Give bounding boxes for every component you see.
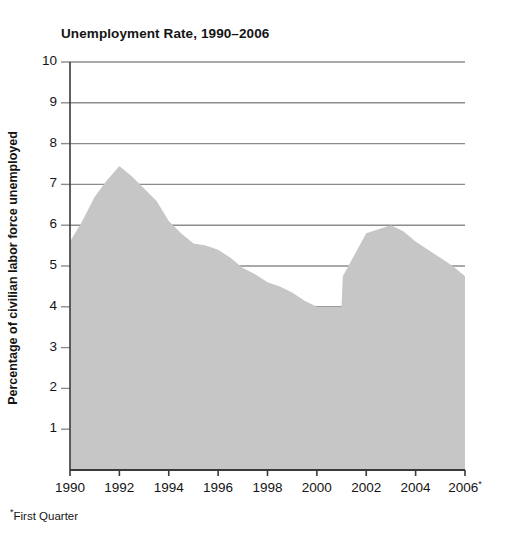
y-tick-label-1: 1 <box>31 420 57 435</box>
x-tick-label-2002: 2002 <box>338 480 394 495</box>
x-tick-label-text: 2006 <box>448 480 478 495</box>
x-tick-label-1994: 1994 <box>141 480 197 495</box>
x-tick-label-text: 1994 <box>154 480 184 495</box>
x-tick-label-1998: 1998 <box>240 480 296 495</box>
y-tick-label-2: 2 <box>31 379 57 394</box>
area-series-unemployment-rate <box>70 166 465 470</box>
unemployment-rate-area-chart: Unemployment Rate, 1990–2006 Percentage … <box>0 0 505 546</box>
x-tick-label-text: 2004 <box>401 480 431 495</box>
y-tick-label-6: 6 <box>31 216 57 231</box>
plot-area <box>0 0 505 546</box>
x-tick-label-1992: 1992 <box>91 480 147 495</box>
x-tick-label-2000: 2000 <box>289 480 345 495</box>
x-tick-label-1996: 1996 <box>190 480 246 495</box>
y-tick-label-9: 9 <box>31 94 57 109</box>
y-tick-label-3: 3 <box>31 339 57 354</box>
x-tick-label-text: 2000 <box>302 480 332 495</box>
x-tick-label-text: 1992 <box>104 480 134 495</box>
x-tick-label-1990: 1990 <box>42 480 98 495</box>
y-tick-label-4: 4 <box>31 298 57 313</box>
footnote: *First Quarter <box>10 510 78 522</box>
footnote-text: First Quarter <box>14 510 79 522</box>
x-tick-label-2006: 2006* <box>437 480 493 495</box>
x-tick-label-text: 1990 <box>55 480 85 495</box>
y-tick-label-5: 5 <box>31 257 57 272</box>
y-tick-label-10: 10 <box>31 53 57 68</box>
x-tick-label-text: 1998 <box>252 480 282 495</box>
y-tick-label-8: 8 <box>31 135 57 150</box>
x-tick-label-2004: 2004 <box>388 480 444 495</box>
x-tick-label-text: 1996 <box>203 480 233 495</box>
y-tick-label-7: 7 <box>31 175 57 190</box>
x-tick-superscript: * <box>478 479 482 489</box>
x-tick-label-text: 2002 <box>351 480 381 495</box>
